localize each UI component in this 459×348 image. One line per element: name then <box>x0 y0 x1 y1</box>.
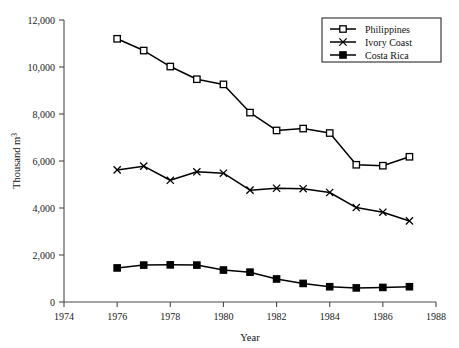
data-point-1982 <box>273 276 279 282</box>
y-axis-title: Thousand m3 <box>10 133 23 189</box>
y-tick-label-10000: 10,000 <box>28 62 56 73</box>
y-axis-title-superscript: 3 <box>10 133 19 137</box>
y-axis-title-text: Thousand m <box>11 137 22 189</box>
data-point-1987 <box>406 284 412 290</box>
data-point-1977 <box>141 262 147 268</box>
data-point-1983 <box>300 125 306 131</box>
legend-marker-open-square-icon <box>340 26 346 32</box>
data-point-1982 <box>273 127 279 133</box>
data-point-1976 <box>114 36 120 42</box>
data-point-1986 <box>380 284 386 290</box>
svg-text:Thousand m3: Thousand m3 <box>10 133 23 189</box>
data-point-1976 <box>114 265 120 271</box>
x-tick-label-1980: 1980 <box>213 311 233 322</box>
data-point-1981 <box>247 109 253 115</box>
x-tick-label-1982: 1982 <box>267 311 287 322</box>
legend-label: Costa Rica <box>365 50 409 61</box>
data-point-1985 <box>353 285 359 291</box>
data-point-1984 <box>327 130 333 136</box>
data-point-1985 <box>353 162 359 168</box>
y-tick-label-2000: 2,000 <box>33 250 56 261</box>
data-point-1984 <box>327 284 333 290</box>
y-tick-label-8000: 8,000 <box>33 109 56 120</box>
x-tick-label-1978: 1978 <box>160 311 180 322</box>
x-tick-label-1974: 1974 <box>54 311 74 322</box>
data-point-1977 <box>141 47 147 53</box>
legend-label: Ivory Coast <box>365 37 412 48</box>
data-point-1986 <box>380 163 386 169</box>
y-tick-label-6000: 6,000 <box>33 156 56 167</box>
y-tick-label-4000: 4,000 <box>33 203 56 214</box>
legend-marker-filled-square-icon <box>340 52 346 58</box>
data-point-1979 <box>194 262 200 268</box>
legend-label: Philippines <box>365 24 410 35</box>
data-point-1980 <box>220 267 226 273</box>
chart-container: 02,0004,0006,0008,00010,00012,000 197419… <box>0 0 459 348</box>
chart-legend: PhilippinesIvory CoastCosta Rica <box>322 18 441 62</box>
data-point-1979 <box>194 76 200 82</box>
x-tick-label-1984: 1984 <box>320 311 340 322</box>
x-tick-label-1986: 1986 <box>373 311 393 322</box>
data-point-1978 <box>167 262 173 268</box>
x-tick-label-1976: 1976 <box>107 311 127 322</box>
x-axis-title: Year <box>240 332 260 343</box>
data-point-1981 <box>247 269 253 275</box>
data-point-1978 <box>167 63 173 69</box>
y-tick-label-0: 0 <box>50 297 55 308</box>
x-tick-label-1988: 1988 <box>426 311 446 322</box>
y-tick-label-12000: 12,000 <box>28 15 56 26</box>
line-chart: 02,0004,0006,0008,00010,00012,000 197419… <box>0 0 459 348</box>
data-point-1980 <box>220 81 226 87</box>
data-point-1987 <box>406 154 412 160</box>
data-point-1983 <box>300 280 306 286</box>
